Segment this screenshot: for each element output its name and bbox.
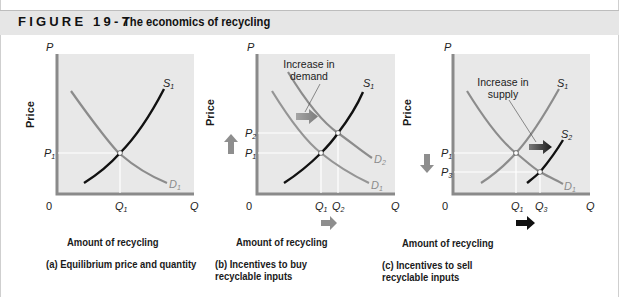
y-axis-title: Price [24, 101, 36, 128]
annotation-line-2: supply [488, 88, 519, 100]
annotation-line-1: Increase in [283, 58, 335, 70]
q1-tick: Q1 [315, 200, 328, 213]
annotation-line-2: demand [290, 70, 328, 82]
origin-label: 0 [46, 200, 52, 212]
p1-tick: P1 [245, 147, 256, 160]
p2-tick: P2 [245, 127, 256, 140]
q2-tick: Q2 [332, 200, 345, 213]
panel-a-x-axis-title: Amount of recycling [67, 236, 158, 248]
q1-tick: Q1 [115, 200, 128, 213]
quantity-right-arrow-icon [321, 216, 337, 230]
origin-label: 0 [246, 200, 252, 212]
panel-a-caption: (a) Equilibrium price and quantity [46, 258, 218, 270]
price-down-arrow-icon [420, 154, 434, 173]
p3-tick: P3 [441, 166, 452, 179]
panel-a-chart: S1 D1 P P1 0 Q1 Q Price [24, 41, 199, 213]
origin-label: 0 [442, 200, 448, 212]
p1-tick: P1 [44, 147, 55, 160]
p1-tick: P1 [441, 147, 452, 160]
equilibrium-point-3 [538, 170, 543, 175]
plot-area [453, 54, 590, 194]
panel-b-x-axis-title: Amount of recycling [236, 236, 327, 248]
y-axis-title: Price [401, 99, 413, 126]
y-axis-letter: P [46, 41, 54, 53]
equilibrium-point-1 [514, 151, 519, 156]
charts-canvas: S1 D1 P P1 0 Q1 Q Price Increase in dema… [0, 0, 619, 297]
y-axis-letter: P [247, 41, 255, 53]
panel-c-caption: (c) Incentives to sell recyclable inputs [382, 259, 502, 283]
panel-c-x-axis-title: Amount of recycling [402, 237, 493, 249]
plot-area [57, 54, 194, 194]
equilibrium-point [118, 151, 123, 156]
price-up-arrow-icon [224, 134, 238, 154]
equilibrium-point-2 [336, 131, 341, 136]
x-axis-letter: Q [586, 200, 595, 212]
y-axis-letter: P [444, 41, 452, 53]
y-axis-title: Price [204, 99, 216, 126]
quantity-right-arrow-icon [516, 216, 535, 230]
panel-b-caption: (b) Incentives to buy recyclable inputs [215, 258, 335, 282]
x-axis-letter: Q [391, 200, 400, 212]
panel-b-chart: Increase in demand S1 D2 D1 P P2 P1 0 Q1… [204, 41, 400, 230]
q1-tick: Q1 [511, 200, 524, 213]
equilibrium-point-1 [319, 151, 324, 156]
q3-tick: Q3 [535, 200, 548, 213]
panel-c-chart: Increase in supply S1 S2 D1 P P1 P3 0 Q1… [401, 41, 595, 230]
annotation-line-1: Increase in [477, 76, 529, 88]
x-axis-letter: Q [190, 200, 199, 212]
